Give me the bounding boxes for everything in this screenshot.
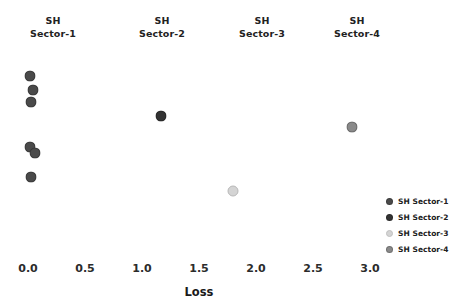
legend-label: SH Sector-4 bbox=[398, 245, 449, 254]
x-axis: 0.00.51.01.52.02.53.0 bbox=[0, 262, 467, 282]
x-tick-label: 1.5 bbox=[189, 262, 209, 275]
data-point bbox=[156, 111, 167, 122]
legend-item[interactable]: SH Sector-1 bbox=[386, 194, 467, 209]
column-header-line1: SH bbox=[239, 14, 285, 27]
column-header-line2: Sector-1 bbox=[30, 27, 76, 40]
x-tick-label: 1.0 bbox=[132, 262, 152, 275]
legend-marker-icon bbox=[386, 214, 393, 221]
x-tick-label: 3.0 bbox=[360, 262, 380, 275]
x-tick-label: 0.0 bbox=[18, 262, 38, 275]
column-header-line1: SH bbox=[30, 14, 76, 27]
column-header-3: SHSector-3 bbox=[239, 14, 285, 40]
legend-marker-icon bbox=[386, 230, 393, 237]
column-header-2: SHSector-2 bbox=[139, 14, 185, 40]
legend-label: SH Sector-2 bbox=[398, 213, 449, 222]
legend: SH Sector-1SH Sector-2SH Sector-3SH Sect… bbox=[386, 194, 467, 258]
column-header-line1: SH bbox=[139, 14, 185, 27]
x-tick-label: 2.5 bbox=[303, 262, 323, 275]
column-header-4: SHSector-4 bbox=[334, 14, 380, 40]
legend-label: SH Sector-3 bbox=[398, 229, 449, 238]
legend-label: SH Sector-1 bbox=[398, 197, 449, 206]
data-point bbox=[228, 186, 239, 197]
x-tick-label: 2.0 bbox=[246, 262, 266, 275]
x-tick-label: 0.5 bbox=[75, 262, 95, 275]
data-point bbox=[26, 171, 37, 182]
legend-item[interactable]: SH Sector-2 bbox=[386, 210, 467, 225]
legend-item[interactable]: SH Sector-4 bbox=[386, 242, 467, 257]
data-point bbox=[29, 147, 40, 158]
column-header-line1: SH bbox=[334, 14, 380, 27]
legend-item[interactable]: SH Sector-3 bbox=[386, 226, 467, 241]
x-axis-label: Loss bbox=[185, 285, 214, 299]
column-header-line2: Sector-3 bbox=[239, 27, 285, 40]
column-header-1: SHSector-1 bbox=[30, 14, 76, 40]
data-point bbox=[25, 70, 36, 81]
data-point bbox=[346, 121, 357, 132]
scatter-chart: SHSector-1SHSector-2SHSector-3SHSector-4… bbox=[0, 0, 467, 308]
data-point bbox=[27, 85, 38, 96]
column-header-line2: Sector-4 bbox=[334, 27, 380, 40]
legend-marker-icon bbox=[386, 198, 393, 205]
column-header-line2: Sector-2 bbox=[139, 27, 185, 40]
data-point bbox=[26, 96, 37, 107]
legend-marker-icon bbox=[386, 246, 393, 253]
